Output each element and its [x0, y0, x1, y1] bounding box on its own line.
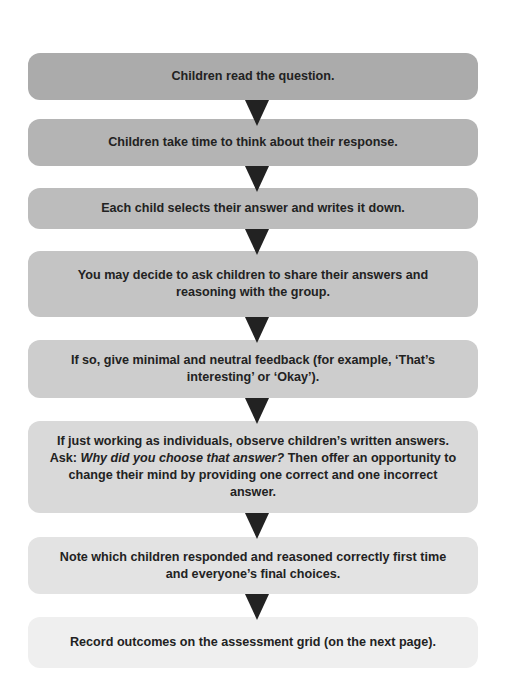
step-think-response: Children take time to think about their …	[28, 119, 478, 166]
down-arrow-icon	[245, 513, 269, 539]
step-note-responses: Note which children responded and reason…	[28, 537, 478, 594]
down-arrow-icon	[245, 317, 269, 343]
down-arrow-icon	[245, 594, 269, 620]
down-arrow-icon	[245, 398, 269, 424]
step-record-outcomes: Record outcomes on the assessment grid (…	[28, 617, 478, 668]
step-text: Note which children responded and reason…	[54, 549, 452, 583]
step-share-answers: You may decide to ask children to share …	[28, 251, 478, 317]
step-text: Children take time to think about their …	[108, 134, 398, 151]
step-text: Each child selects their answer and writ…	[101, 200, 405, 217]
step-text: You may decide to ask children to share …	[68, 267, 438, 301]
step-text: Children read the question.	[171, 68, 334, 85]
step-observe-individuals: If just working as individuals, observe …	[28, 421, 478, 513]
step-text: Record outcomes on the assessment grid (…	[70, 634, 436, 651]
step-text: If so, give minimal and neutral feedback…	[60, 352, 446, 386]
step-select-answer: Each child selects their answer and writ…	[28, 188, 478, 229]
step-text-question: Why did you choose that answer?	[81, 451, 285, 465]
step-text: If just working as individuals, observe …	[44, 433, 462, 501]
down-arrow-icon	[245, 166, 269, 192]
flowchart: Children read the question. Children tak…	[0, 0, 505, 686]
step-neutral-feedback: If so, give minimal and neutral feedback…	[28, 340, 478, 398]
step-read-question: Children read the question.	[28, 53, 478, 100]
down-arrow-icon	[245, 229, 269, 255]
down-arrow-icon	[245, 100, 269, 126]
